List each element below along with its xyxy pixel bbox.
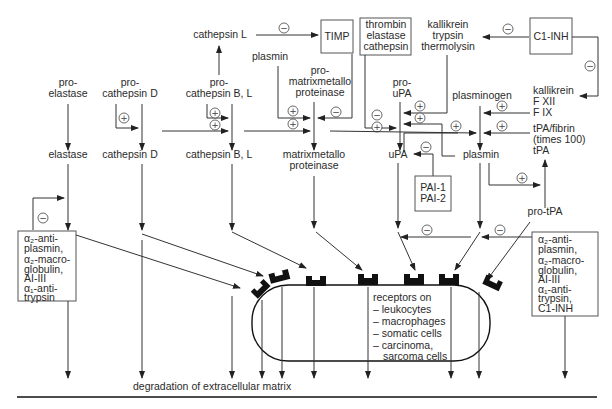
minus-sign: − — [331, 107, 341, 117]
receptor-icon — [404, 274, 424, 285]
plus-sign: + — [497, 101, 507, 111]
arrow-diag-mmp — [316, 232, 362, 270]
svg-text:−: − — [373, 110, 381, 120]
plus-sign: + — [372, 122, 382, 132]
minus-sign: − — [503, 24, 513, 34]
arrow-pai-upa — [414, 154, 433, 176]
minus-sign: − — [38, 213, 48, 223]
pro-elastase-label-2: elastase — [48, 87, 87, 99]
svg-text:−: − — [280, 23, 288, 33]
thermolysin-label: thermolysin — [421, 40, 475, 52]
tpa-label: tPA — [533, 144, 549, 156]
svg-text:+: + — [289, 119, 297, 129]
minus-sign: − — [495, 225, 505, 235]
svg-text:−: − — [422, 142, 430, 152]
matrix-degradation-label: degradation of extracellular matrix — [133, 380, 292, 392]
minus-sign: − — [372, 110, 382, 120]
minus-sign: − — [421, 142, 431, 152]
line-upa-feedback — [404, 133, 458, 152]
receptor-icon — [482, 275, 503, 292]
arrow-diag-plasmin — [455, 232, 480, 270]
minus-sign: − — [422, 225, 432, 235]
cathepsin-L-label: cathepsin L — [193, 28, 247, 40]
svg-text:+: + — [518, 173, 526, 183]
svg-text:+: + — [289, 106, 297, 116]
receptor-icon — [306, 276, 326, 286]
elastase-label: elastase — [48, 148, 87, 160]
svg-text:−: − — [423, 225, 431, 235]
pro-mmp-label-3: proteinase — [295, 86, 344, 98]
arrow-diag-cathepsinBL — [232, 232, 306, 268]
plasminogen-label: plasminogen — [452, 89, 512, 101]
plus-sign: + — [451, 121, 461, 131]
pai-2-label: PAI-2 — [420, 192, 446, 204]
arrow-diag-upa — [398, 232, 415, 270]
svg-text:C1-INH: C1-INH — [538, 302, 573, 314]
cathepsin-D-label: cathepsin D — [102, 148, 158, 160]
arrow-diag-cathepsinD — [142, 234, 263, 276]
pro-upa-label-2: uPA — [392, 87, 411, 99]
fix-label: F IX — [533, 106, 552, 118]
plus-sign: + — [288, 119, 298, 129]
svg-text:−: − — [39, 213, 47, 223]
arrow-plasmin-protpa — [489, 163, 540, 185]
svg-text:−: − — [586, 61, 594, 71]
svg-text:– leukocytes: – leukocytes — [373, 303, 431, 315]
pro-tpa-label: pro-tPA — [528, 205, 563, 217]
svg-text:receptors on: receptors on — [373, 291, 432, 303]
svg-text:+: + — [211, 108, 219, 118]
plus-sign: + — [415, 101, 425, 111]
receptor-icon — [358, 274, 378, 285]
cathepsin-BL-label: cathepsin B, L — [186, 148, 253, 160]
arrow-inhibitor-elastase — [33, 198, 64, 230]
svg-text:sarcoma cells: sarcoma cells — [383, 350, 447, 362]
minus-sign: − — [585, 61, 595, 71]
receptor-icon — [439, 274, 459, 285]
svg-text:– somatic cells: – somatic cells — [373, 327, 442, 339]
pro-cathepsin-D-label-2: cathepsin D — [102, 87, 158, 99]
c1-inh-label: C1-INH — [533, 30, 568, 42]
svg-text:+: + — [120, 113, 128, 123]
svg-text:– macrophages: – macrophages — [373, 315, 445, 327]
minus-sign: − — [279, 23, 289, 33]
arrow-diag-elastase — [76, 235, 240, 288]
plus-sign: + — [288, 106, 298, 116]
svg-text:−: − — [496, 225, 504, 235]
plus-sign: + — [415, 113, 425, 123]
plus-sign: + — [210, 108, 220, 118]
mmp-label-2: proteinase — [289, 159, 338, 171]
svg-text:+: + — [373, 122, 381, 132]
svg-text:+: + — [211, 120, 219, 130]
receptor-icon — [268, 269, 290, 284]
svg-text:trypsin: trypsin — [24, 291, 55, 303]
protease-cascade-diagram: cathepsin L − TIMP thrombin elastase cat… — [0, 0, 612, 409]
plus-sign: + — [497, 121, 507, 131]
upa-label: uPA — [388, 148, 407, 160]
svg-text:−: − — [504, 24, 512, 34]
svg-text:+: + — [452, 121, 460, 131]
svg-text:+: + — [498, 121, 506, 131]
svg-text:cathepsin L: cathepsin L — [193, 28, 247, 40]
plus-sign: + — [119, 113, 129, 123]
pro-cathepsin-BL-label-2: cathepsin B, L — [186, 87, 253, 99]
cathepsin-label: cathepsin — [364, 40, 409, 52]
svg-text:+: + — [416, 101, 424, 111]
svg-text:+: + — [416, 113, 424, 123]
plasmin-top-label: plasmin — [252, 50, 288, 62]
svg-text:−: − — [332, 107, 340, 117]
cell-body — [252, 285, 490, 361]
plasmin-label: plasmin — [463, 148, 499, 160]
plus-sign: + — [517, 173, 527, 183]
plus-sign: + — [210, 120, 220, 130]
arrow-diag-protpa — [487, 222, 530, 280]
svg-text:+: + — [498, 101, 506, 111]
timp-label: TIMP — [324, 30, 349, 42]
